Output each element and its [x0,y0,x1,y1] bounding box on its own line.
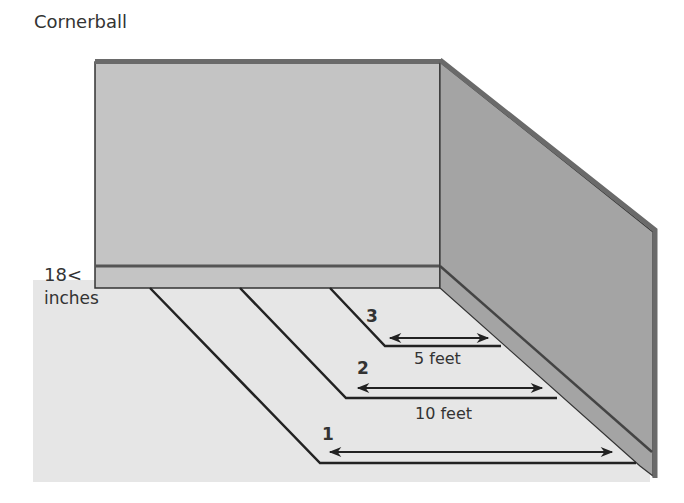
cornerball-court-diagram [0,0,684,503]
height-pointer-icon: < [67,264,82,285]
back-wall-top-edge [95,59,442,64]
wall-height-value: 18< [44,264,82,285]
wall-height-unit: inches [44,288,99,308]
height-number: 18 [44,264,67,285]
zone-2-distance: 10 feet [415,404,472,423]
back-wall [95,62,440,288]
zone-2-label: 2 [357,358,369,378]
zone-3-distance: 5 feet [414,349,461,368]
zone-3-label: 3 [366,306,378,326]
diagram-title: Cornerball [34,11,127,32]
zone-1-label: 1 [322,424,334,444]
